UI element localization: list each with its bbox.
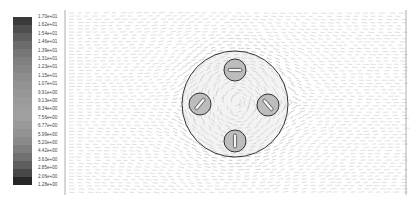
slot-top — [228, 68, 242, 71]
slot-bottom — [233, 134, 236, 148]
vector-field-plot — [0, 0, 416, 202]
geometry — [182, 51, 288, 157]
